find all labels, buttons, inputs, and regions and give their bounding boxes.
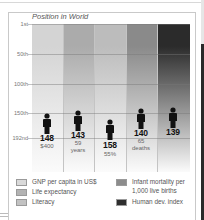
legend-label: Life expectancy bbox=[32, 188, 76, 197]
tick-1st: 1st bbox=[21, 21, 28, 27]
gridline-1st bbox=[28, 24, 190, 25]
value-life-expectancy-unit: years bbox=[62, 147, 94, 154]
legend-swatch bbox=[16, 199, 27, 206]
rank-infant-mortality: 140 bbox=[125, 129, 157, 138]
person-icon bbox=[72, 110, 84, 132]
legend-swatch bbox=[16, 179, 27, 186]
legend-item-human-dev-index: Human dev. index bbox=[116, 198, 183, 207]
rank-literacy: 158 bbox=[94, 141, 126, 150]
chart-page: Position in World 1st 50th 100th 150th 1… bbox=[0, 0, 204, 220]
legend-label-line2: 1,000 live births bbox=[132, 187, 185, 196]
person-icon bbox=[135, 108, 147, 130]
legend: GNP per capita in US$ Life expectancy Li… bbox=[16, 178, 196, 218]
tick-192nd: 192nd bbox=[12, 135, 28, 141]
gridline-100th bbox=[28, 84, 190, 85]
legend-item-gnp: GNP per capita in US$ bbox=[16, 178, 97, 187]
legend-label: Infant mortality per bbox=[132, 178, 185, 187]
rank-human-dev-index: 139 bbox=[157, 128, 189, 137]
rank-life-expectancy: 143 bbox=[62, 131, 94, 140]
column-human-dev-index bbox=[158, 24, 190, 172]
right-edge-dark bbox=[201, 44, 204, 220]
value-infant-mortality: 65 bbox=[125, 138, 157, 145]
legend-item-life-expectancy: Life expectancy bbox=[16, 188, 76, 197]
legend-item-infant-mortality: Infant mortality per 1,000 live births bbox=[116, 178, 185, 195]
value-literacy: 55% bbox=[94, 151, 126, 158]
column-gnp bbox=[32, 24, 64, 172]
tick-50th: 50th bbox=[17, 51, 28, 57]
legend-swatch bbox=[16, 189, 27, 196]
legend-label: Literacy bbox=[32, 198, 54, 207]
value-infant-mortality-unit: deaths bbox=[125, 145, 157, 152]
person-icon bbox=[41, 113, 53, 135]
right-edge-light bbox=[201, 0, 204, 44]
person-icon bbox=[104, 119, 116, 141]
value-gnp: $400 bbox=[31, 143, 63, 150]
tick-150th: 150th bbox=[14, 110, 28, 116]
rank-gnp: 148 bbox=[31, 134, 63, 143]
legend-swatch bbox=[116, 179, 127, 186]
top-divider bbox=[0, 2, 204, 3]
chart-title: Position in World bbox=[32, 12, 88, 21]
gridline-50th bbox=[28, 54, 190, 55]
legend-label: GNP per capita in US$ bbox=[32, 178, 97, 187]
legend-swatch bbox=[116, 199, 127, 206]
legend-item-literacy: Literacy bbox=[16, 198, 54, 207]
person-icon bbox=[167, 107, 179, 129]
value-life-expectancy: 59 bbox=[62, 140, 94, 147]
legend-label: Human dev. index bbox=[132, 198, 183, 207]
tick-100th: 100th bbox=[14, 81, 28, 87]
